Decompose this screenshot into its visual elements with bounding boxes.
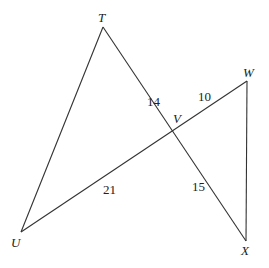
segment-wx: [246, 81, 247, 241]
point-label-x: X: [240, 243, 250, 258]
point-label-w: W: [243, 65, 255, 80]
length-label-vw: 10: [198, 89, 211, 104]
geometry-diagram: T W V U X 14 10 21 15: [0, 0, 269, 268]
point-label-v: V: [173, 111, 183, 126]
segment-tu: [21, 27, 103, 232]
point-label-u: U: [11, 235, 22, 250]
length-label-vx: 15: [192, 179, 205, 194]
segment-tx: [103, 27, 246, 241]
point-label-t: T: [98, 10, 106, 25]
length-label-uv: 21: [103, 182, 116, 197]
segment-uw: [21, 81, 247, 232]
length-label-tv: 14: [147, 94, 161, 109]
